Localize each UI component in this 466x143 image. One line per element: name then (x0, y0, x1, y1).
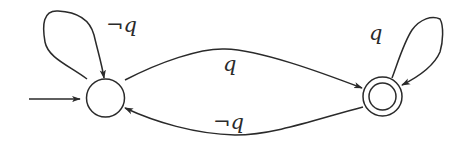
transition-loop-s0 (44, 11, 104, 79)
label-loop-s1: q (369, 21, 382, 45)
label-loop-s0: ¬q (106, 13, 137, 37)
state-s0 (87, 79, 125, 117)
label-s1-to-s0: ¬q (213, 110, 244, 134)
transition-loop-s1 (392, 17, 443, 85)
state-s1-accepting (363, 77, 402, 116)
label-s0-to-s1: q (223, 52, 236, 76)
transition-s0-to-s1 (125, 49, 362, 88)
automaton-diagram: ¬q q q ¬q (0, 0, 466, 143)
